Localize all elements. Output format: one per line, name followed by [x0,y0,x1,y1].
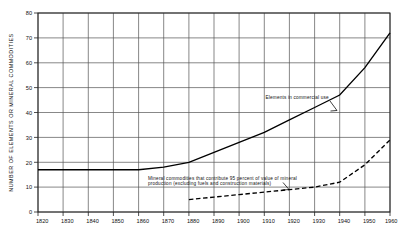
x-tick-label: 1850 [111,218,123,224]
x-tick-label: 1860 [137,218,149,224]
y-axis-title: NUMBER OF ELEMENTS OR MINERAL COMMODITIE… [8,33,14,191]
y-tick-label: 20 [26,160,32,166]
x-tick-label: 1940 [338,218,350,224]
y-tick-label: 30 [26,135,32,141]
x-tick-label: 1960 [385,218,397,224]
x-tick-label: 1830 [61,218,73,224]
x-tick-label: 1840 [86,218,98,224]
annotation-mineral-line1: Mineral commodities that contribute 95 p… [148,176,297,181]
y-tick-label: 10 [26,184,32,190]
y-tick-label: 80 [26,10,32,16]
annotation-mineral-line2: production (excluding fuels and construc… [148,181,271,186]
y-tick-label: 50 [26,85,32,91]
x-tick-label: 1910 [262,218,274,224]
x-tick-label: 1880 [187,218,199,224]
x-tick-marks [38,212,390,216]
x-tick-label: 1890 [212,218,224,224]
y-tick-labels: 80 70 60 50 40 30 20 10 0 [26,10,32,215]
annotation-elements-label: Elements in commercial use [266,95,330,100]
chart-figure: 80 70 60 50 40 30 20 10 0 [0,0,409,244]
y-tick-label: 70 [26,35,32,41]
y-tick-marks [34,13,38,212]
x-tick-label: 1900 [237,218,249,224]
y-tick-label: 0 [29,209,32,215]
y-tick-label: 60 [26,60,32,66]
y-tick-label: 40 [26,110,32,116]
x-tick-label: 1950 [363,218,375,224]
x-tick-label: 1920 [287,218,299,224]
x-tick-label: 1870 [162,218,174,224]
x-tick-label: 1930 [313,218,325,224]
line-chart: 80 70 60 50 40 30 20 10 0 [0,0,409,244]
x-tick-label: 1820 [36,218,48,224]
x-tick-labels: 1820 1830 1840 1850 1860 1870 1880 1890 … [36,218,397,224]
